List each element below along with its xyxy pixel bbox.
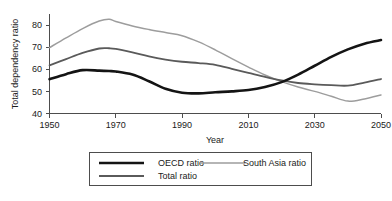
x-axis: 195019701990201020302050 Year <box>39 114 391 146</box>
legend-label-south-asia-ratio: South Asia ratio <box>243 158 306 168</box>
y-tick-group: 4050607080 <box>32 20 50 118</box>
x-tick-label: 2050 <box>371 120 391 130</box>
x-tick-label: 2010 <box>238 120 258 130</box>
y-tick-label: 70 <box>32 42 42 52</box>
x-tick-label: 2030 <box>305 120 325 130</box>
chart-legend: OECD ratioSouth Asia ratioTotal ratio <box>90 153 312 186</box>
x-tick-label: 1950 <box>39 120 59 130</box>
y-tick-label: 60 <box>32 64 42 74</box>
y-tick-label: 40 <box>32 109 42 119</box>
x-tick-label: 1970 <box>106 120 126 130</box>
x-axis-title: Year <box>206 135 224 145</box>
legend-label-total-ratio: Total ratio <box>158 171 197 181</box>
series-line-total-ratio <box>50 48 382 86</box>
x-tick-label: 1990 <box>172 120 192 130</box>
y-axis: 4050607080 Total dependency ratio <box>10 14 50 119</box>
y-tick-label: 80 <box>32 20 42 30</box>
line-chart: 4050607080 Total dependency ratio 195019… <box>0 0 392 201</box>
y-tick-label: 50 <box>32 87 42 97</box>
legend-label-oecd-ratio: OECD ratio <box>158 158 204 168</box>
x-tick-group: 195019701990201020302050 <box>39 114 391 131</box>
y-axis-title: Total dependency ratio <box>10 19 20 110</box>
series-group <box>50 19 382 101</box>
series-line-south-asia-ratio <box>50 19 382 101</box>
chart-figure: 4050607080 Total dependency ratio 195019… <box>0 0 392 201</box>
